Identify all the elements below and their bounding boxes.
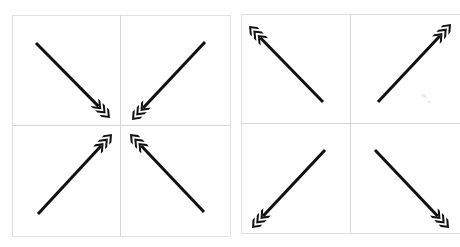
arrow-bottom-left-icon: [252, 150, 325, 228]
arrow-bottom-left-icon: [38, 134, 112, 214]
arrow-top-right-icon: [132, 42, 205, 120]
arrow-bottom-right-icon: [375, 150, 449, 228]
arrow-top-right-icon: [378, 24, 451, 102]
arrow-diagram: [0, 0, 460, 247]
scan-artifact: [421, 93, 431, 103]
arrow-top-left-icon: [249, 26, 323, 102]
diverging-arrows-panel: [241, 14, 460, 234]
converging-arrows-panel: [12, 15, 231, 237]
arrow-bottom-right-icon: [130, 134, 204, 212]
arrow-top-left-icon: [36, 43, 110, 118]
